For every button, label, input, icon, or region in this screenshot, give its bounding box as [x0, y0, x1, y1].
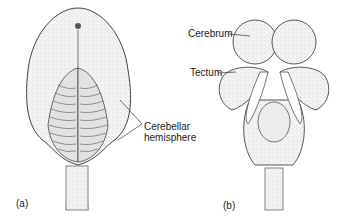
- illustration: [0, 0, 353, 224]
- label-line-1: Cerebellar: [144, 121, 196, 132]
- panel-b-brain: [218, 20, 329, 210]
- label-cerebellar-hemisphere: Cerebellar hemisphere: [144, 121, 196, 143]
- label-cerebrum: Cerebrum: [188, 28, 232, 39]
- panel-a-brain: [27, 8, 142, 210]
- panel-label-b: (b): [223, 200, 235, 211]
- brain-comparison-figure: Cerebellar hemisphere Cerebrum Tectum (a…: [0, 0, 353, 224]
- label-tectum: Tectum: [190, 67, 222, 78]
- panel-label-a: (a): [16, 198, 28, 209]
- label-line-2: hemisphere: [144, 132, 196, 143]
